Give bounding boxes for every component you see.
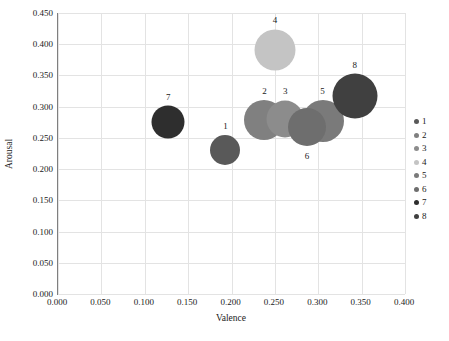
- y-tick-label: 0.050: [33, 258, 53, 267]
- gridline-vertical: [405, 13, 406, 294]
- y-tick-label: 0.350: [33, 71, 53, 80]
- legend-item-3[interactable]: 3: [414, 142, 448, 156]
- legend-marker-icon: [414, 187, 419, 192]
- legend-label: 6: [422, 185, 427, 194]
- legend: 12345678: [414, 115, 448, 223]
- plot-area: 12345678: [57, 13, 405, 295]
- legend-item-2[interactable]: 2: [414, 129, 448, 143]
- x-tick-label: 0.250: [264, 298, 284, 307]
- x-tick-label: 0.400: [394, 298, 414, 307]
- gridline-vertical: [318, 13, 319, 294]
- legend-marker-icon: [414, 160, 419, 165]
- y-tick-label: 0.200: [33, 165, 53, 174]
- legend-item-5[interactable]: 5: [414, 169, 448, 183]
- gridline-vertical: [145, 13, 146, 294]
- x-axis-title: Valence: [57, 313, 405, 323]
- x-tick-label: 0.350: [351, 298, 371, 307]
- legend-label: 5: [422, 171, 427, 180]
- data-point-4[interactable]: [254, 30, 295, 71]
- y-tick-label: 0.450: [33, 9, 53, 18]
- data-point-6[interactable]: [288, 108, 326, 146]
- data-point-label-6: 6: [305, 152, 310, 161]
- bubble-chart: Arousal 0.0000.0500.1000.1500.2000.2500.…: [0, 0, 449, 341]
- data-point-label-1: 1: [223, 121, 228, 130]
- y-tick-label: 0.100: [33, 227, 53, 236]
- legend-marker-icon: [414, 119, 419, 124]
- x-axis-tick-labels: 0.0000.0500.1000.1500.2000.2500.3000.350…: [57, 298, 405, 312]
- legend-item-1[interactable]: 1: [414, 115, 448, 129]
- data-point-label-2: 2: [262, 87, 267, 96]
- legend-marker-icon: [414, 146, 419, 151]
- gridline-vertical: [101, 13, 102, 294]
- y-axis-tick-labels: 0.0000.0500.1000.1500.2000.2500.3000.350…: [0, 13, 53, 295]
- data-point-label-5: 5: [320, 87, 325, 96]
- x-tick-label: 0.300: [307, 298, 327, 307]
- x-tick-label: 0.000: [47, 298, 67, 307]
- legend-label: 4: [422, 158, 427, 167]
- data-point-label-7: 7: [166, 92, 171, 101]
- gridline-horizontal: [58, 294, 405, 295]
- y-tick-label: 0.300: [33, 102, 53, 111]
- data-point-label-8: 8: [352, 61, 357, 70]
- data-point-label-4: 4: [273, 16, 278, 25]
- legend-item-6[interactable]: 6: [414, 183, 448, 197]
- legend-marker-icon: [414, 173, 419, 178]
- gridline-vertical: [58, 13, 59, 294]
- legend-marker-icon: [414, 133, 419, 138]
- legend-label: 7: [422, 198, 427, 207]
- legend-label: 2: [422, 131, 427, 140]
- gridline-vertical: [188, 13, 189, 294]
- legend-item-7[interactable]: 7: [414, 196, 448, 210]
- y-tick-label: 0.150: [33, 196, 53, 205]
- x-tick-label: 0.200: [220, 298, 240, 307]
- legend-label: 1: [422, 117, 427, 126]
- gridline-vertical: [362, 13, 363, 294]
- x-tick-label: 0.100: [134, 298, 154, 307]
- legend-marker-icon: [414, 214, 419, 219]
- data-point-label-3: 3: [283, 87, 288, 96]
- legend-item-8[interactable]: 8: [414, 210, 448, 224]
- legend-label: 8: [422, 212, 427, 221]
- data-point-1[interactable]: [210, 135, 240, 165]
- legend-marker-icon: [414, 200, 419, 205]
- x-tick-label: 0.150: [177, 298, 197, 307]
- data-point-8[interactable]: [332, 74, 377, 119]
- data-point-7[interactable]: [152, 105, 185, 138]
- legend-item-4[interactable]: 4: [414, 156, 448, 170]
- y-tick-label: 0.400: [33, 40, 53, 49]
- legend-label: 3: [422, 144, 427, 153]
- y-tick-label: 0.250: [33, 133, 53, 142]
- x-tick-label: 0.050: [90, 298, 110, 307]
